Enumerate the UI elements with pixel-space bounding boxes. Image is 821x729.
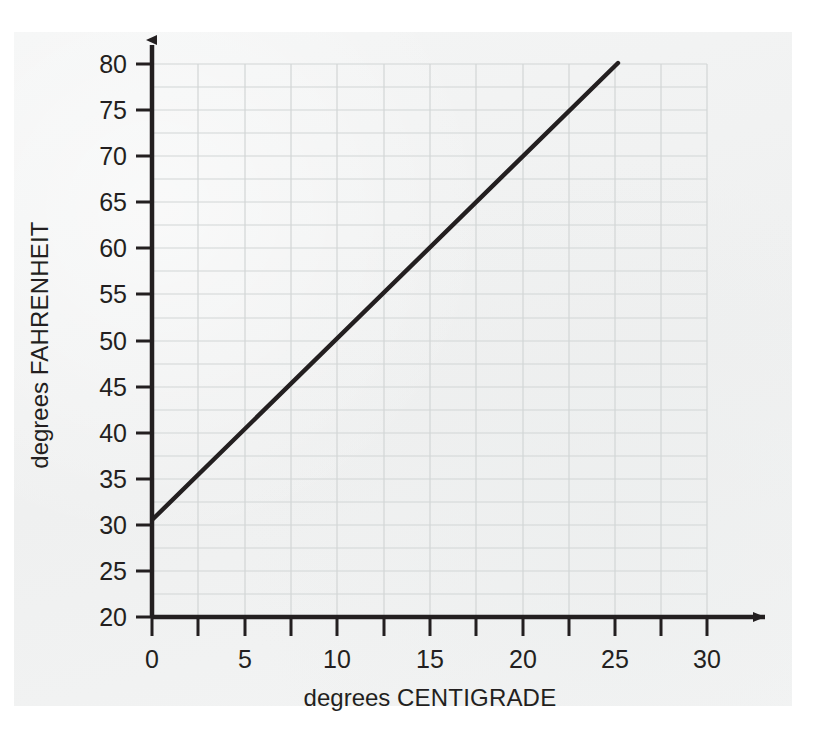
x-tick-label: 10 (323, 645, 351, 673)
y-tick-label: 75 (99, 96, 127, 124)
x-tick-label: 0 (145, 645, 159, 673)
data-series-group (153, 63, 618, 519)
x-axis-title: degrees CENTIGRADE (304, 684, 557, 711)
y-tick-label: 30 (99, 511, 127, 539)
x-axis-ticks (152, 617, 707, 636)
x-axis-title-emphasis: CENTIGRADE (397, 684, 556, 711)
svg-text:degrees FAHRENHEIT: degrees FAHRENHEIT (26, 221, 53, 469)
y-axis-title-emphasis: FAHRENHEIT (26, 221, 53, 375)
x-tick-label: 5 (238, 645, 252, 673)
y-axis-title-prefix: degrees (26, 375, 53, 468)
y-tick-label: 35 (99, 465, 127, 493)
y-tick-label: 60 (99, 234, 127, 262)
y-axis-ticks (136, 64, 152, 617)
y-axis-tick-labels: 80 75 70 65 60 55 50 45 40 35 30 25 20 (99, 50, 127, 631)
x-tick-label: 20 (509, 645, 537, 673)
y-tick-label: 25 (99, 557, 127, 585)
figure-page: 80 75 70 65 60 55 50 45 40 35 30 25 20 0… (0, 0, 821, 729)
x-tick-label: 30 (693, 645, 721, 673)
y-tick-label: 55 (99, 280, 127, 308)
y-tick-label: 80 (99, 50, 127, 78)
y-tick-label: 70 (99, 142, 127, 170)
x-tick-label: 25 (601, 645, 629, 673)
x-axis-title-prefix: degrees (304, 684, 397, 711)
y-tick-label: 20 (99, 603, 127, 631)
chart-axes (152, 45, 765, 617)
line-chart: 80 75 70 65 60 55 50 45 40 35 30 25 20 0… (0, 0, 821, 729)
chart-grid (152, 64, 707, 617)
x-tick-label: 15 (416, 645, 444, 673)
y-tick-label: 40 (99, 419, 127, 447)
y-axis-title: degrees FAHRENHEIT (26, 221, 53, 469)
conversion-line (153, 63, 618, 519)
svg-text:degrees CENTIGRADE: degrees CENTIGRADE (304, 684, 557, 711)
y-tick-label: 65 (99, 188, 127, 216)
y-tick-label: 45 (99, 373, 127, 401)
x-axis-tick-labels: 0 5 10 15 20 25 30 (145, 645, 721, 673)
y-tick-label: 50 (99, 327, 127, 355)
